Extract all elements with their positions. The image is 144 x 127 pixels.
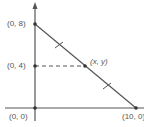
label-0-8: (0, 8) [7,20,26,28]
label-x-y: (x, y) [90,58,108,66]
point-x-y [83,64,87,68]
point-origin [33,106,37,110]
diagram-canvas: (0, 8) (0, 4) (x, y) (0, 0) (10, 0) [0,0,144,127]
point-10-0 [134,106,138,110]
y-axis-arrow-icon [33,2,38,9]
label-0-4: (0, 4) [7,62,26,70]
tick-mark-1 [55,42,63,48]
point-0-4 [33,64,37,68]
point-0-8 [33,22,37,26]
label-origin: (0, 0) [9,113,28,121]
label-10-0: (10, 0) [122,113,144,121]
